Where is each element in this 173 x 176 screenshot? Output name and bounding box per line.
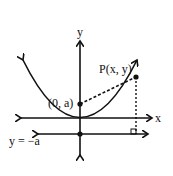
parabola-diagram: y x (0, a) P(x, y) y = −a [0,0,173,176]
diagram-canvas: y x (0, a) P(x, y) y = −a [0,0,173,176]
focus-point [77,101,82,106]
vertex-directrix-intersection [77,131,82,136]
focus-to-point-segment [80,77,136,104]
directrix-label: y = −a [9,134,41,148]
focus-label: (0, a) [48,96,73,110]
x-axis-label: x [155,111,161,125]
y-axis-label: y [77,25,83,39]
point-p [133,74,138,79]
point-label: P(x, y) [99,62,132,76]
